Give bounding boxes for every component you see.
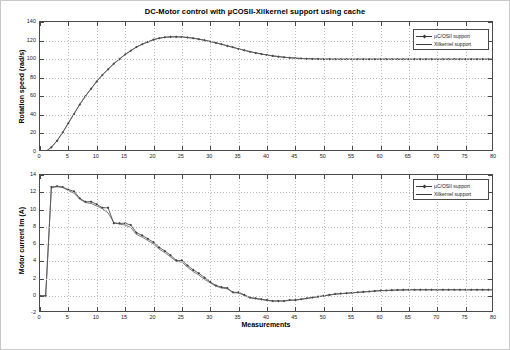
y-axis-tick <box>40 227 44 228</box>
y-axis-tick <box>40 22 44 23</box>
y-axis-tick-label: 14 <box>17 171 36 177</box>
y-axis-tick-label: 140 <box>17 18 36 24</box>
y-axis-tick-label: 20 <box>17 129 36 135</box>
x-axis-tick <box>466 307 467 311</box>
x-axis-tick-label: 20 <box>149 314 155 320</box>
x-axis-tick-label: 40 <box>263 153 269 159</box>
legend-item-ucosii[interactable]: µC/OSII support <box>416 182 485 190</box>
x-axis-tick-label: 35 <box>235 153 241 159</box>
gridline-horizontal <box>40 296 492 297</box>
x-axis-tick-label: 25 <box>178 153 184 159</box>
y-axis-tick-label: 0 <box>17 292 36 298</box>
y-axis-tick-label: 12 <box>17 188 36 194</box>
y-axis-tick <box>40 279 44 280</box>
x-axis-tick <box>409 307 410 311</box>
y-axis-tick <box>488 227 492 228</box>
gridline-horizontal <box>40 244 492 245</box>
legend-item-ucosii[interactable]: µC/OSII support <box>416 32 485 40</box>
x-axis-tick <box>267 175 268 179</box>
x-axis-tick <box>210 175 211 179</box>
legend-rotation-speed[interactable]: µC/OSII support Xilkernel support <box>413 29 489 50</box>
y-axis-tick <box>40 115 44 116</box>
x-axis-tick-label: 0 <box>37 153 40 159</box>
x-axis-tick-label: 25 <box>178 314 184 320</box>
y-axis-tick-label: 2 <box>17 275 36 281</box>
x-axis-tick-label: 0 <box>37 314 40 320</box>
y-axis-tick-label: 0 <box>17 148 36 154</box>
x-axis-tick-label: 70 <box>433 314 439 320</box>
gridline-horizontal <box>40 78 492 79</box>
gridline-vertical <box>239 175 240 311</box>
x-axis-tick <box>154 175 155 179</box>
y-axis-tick-label: 8 <box>17 223 36 229</box>
y-axis-tick-label: 120 <box>17 37 36 43</box>
x-axis-tick <box>182 307 183 311</box>
y-axis-tick <box>488 96 492 97</box>
legend-label-xilkernel: Xilkernel support <box>434 191 471 197</box>
x-axis-tick <box>409 146 410 150</box>
legend-item-xilkernel[interactable]: Xilkernel support <box>416 40 485 48</box>
y-axis-tick <box>40 261 44 262</box>
y-axis-tick <box>488 244 492 245</box>
x-axis-tick-label: 5 <box>66 153 69 159</box>
gridline-vertical <box>267 175 268 311</box>
x-axis-tick <box>97 175 98 179</box>
legend-item-xilkernel[interactable]: Xilkernel support <box>416 190 485 198</box>
gridline-horizontal <box>40 133 492 134</box>
gridline-horizontal <box>40 279 492 280</box>
x-axis-tick <box>324 22 325 26</box>
x-axis-label-measurements: Measurements <box>39 321 493 328</box>
x-axis-tick <box>409 175 410 179</box>
gridline-horizontal <box>40 115 492 116</box>
x-axis-tick <box>210 22 211 26</box>
gridline-vertical <box>125 175 126 311</box>
x-axis-tick-label: 50 <box>320 153 326 159</box>
x-axis-tick-label: 30 <box>206 153 212 159</box>
x-axis-tick <box>466 146 467 150</box>
x-axis-tick-label: 15 <box>121 314 127 320</box>
y-axis-tick <box>40 175 44 176</box>
x-axis-tick <box>210 307 211 311</box>
x-axis-tick <box>466 22 467 26</box>
series-marker <box>44 150 47 151</box>
x-axis-tick <box>125 22 126 26</box>
gridline-vertical <box>97 175 98 311</box>
x-axis-tick-label: 5 <box>66 314 69 320</box>
y-axis-tick <box>40 96 44 97</box>
x-axis-tick-label: 55 <box>348 153 354 159</box>
y-axis-tick <box>40 133 44 134</box>
x-axis-tick <box>324 307 325 311</box>
x-axis-tick-label: 10 <box>93 314 99 320</box>
x-axis-tick <box>182 146 183 150</box>
y-axis-tick <box>488 115 492 116</box>
x-axis-tick <box>40 307 41 311</box>
y-axis-tick <box>40 244 44 245</box>
x-axis-tick <box>210 146 211 150</box>
legend-motor-current[interactable]: µC/OSII support Xilkernel support <box>413 179 489 200</box>
x-axis-tick <box>154 22 155 26</box>
gridline-vertical <box>324 175 325 311</box>
x-axis-tick-label: 75 <box>462 314 468 320</box>
x-axis-tick-label: 35 <box>235 314 241 320</box>
gridline-horizontal <box>40 261 492 262</box>
x-axis-tick <box>437 307 438 311</box>
x-axis-tick <box>68 307 69 311</box>
x-axis-tick-label: 10 <box>93 153 99 159</box>
x-axis-tick <box>324 146 325 150</box>
x-axis-tick <box>324 175 325 179</box>
x-axis-tick <box>381 146 382 150</box>
y-axis-tick <box>488 175 492 176</box>
legend-label-ucosii: µC/OSII support <box>434 183 470 189</box>
y-axis-tick <box>488 133 492 134</box>
y-axis-tick-label: 10 <box>17 206 36 212</box>
x-axis-tick <box>381 175 382 179</box>
x-axis-tick <box>437 22 438 26</box>
y-axis-tick-label: 6 <box>17 240 36 246</box>
y-axis-tick <box>40 41 44 42</box>
x-axis-tick <box>352 22 353 26</box>
x-axis-tick-label: 80 <box>490 153 496 159</box>
gridline-vertical <box>154 175 155 311</box>
y-axis-tick-label: 60 <box>17 92 36 98</box>
x-axis-tick <box>267 307 268 311</box>
y-axis-tick <box>488 261 492 262</box>
